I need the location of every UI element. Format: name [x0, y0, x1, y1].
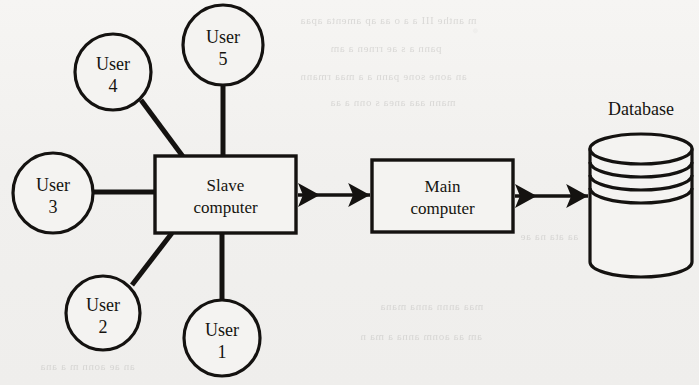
link-user2-slave — [132, 233, 172, 285]
user-node-1[interactable]: User1 — [184, 300, 260, 376]
main-computer-box-label-line2: computer — [410, 199, 475, 218]
database-cylinder[interactable]: Database — [590, 99, 692, 277]
system-topology-diagram: User1User2User3User4User5SlavecomputerMa… — [0, 0, 699, 385]
user-node-4-label-line2: 4 — [109, 76, 118, 96]
user-node-5-label-line2: 5 — [219, 49, 228, 69]
link-user4-slave — [141, 100, 184, 158]
main-computer-box[interactable]: Maincomputer — [372, 160, 513, 232]
database-cylinder-label: Database — [608, 99, 674, 119]
user-node-3-label-line1: User — [36, 175, 70, 195]
database-cylinder-body — [590, 149, 692, 277]
slave-computer-box-label-line2: computer — [193, 198, 258, 217]
user-node-1-label-line2: 1 — [218, 342, 227, 362]
main-computer-box-label-line1: Main — [425, 177, 461, 196]
user-node-5-label-line1: User — [206, 27, 240, 47]
user-node-2-label-line2: 2 — [99, 317, 108, 337]
user-node-2-label-line1: User — [86, 295, 120, 315]
main-computer-box-outline — [372, 160, 513, 232]
user-node-2[interactable]: User2 — [66, 276, 140, 350]
user-node-4-label-line1: User — [96, 54, 130, 74]
user-node-3[interactable]: User3 — [13, 153, 93, 233]
scanned-diagram-page: m anthe III a a o aa ap amenta apaapann … — [0, 0, 699, 385]
slave-computer-box-label-line1: Slave — [207, 176, 245, 195]
slave-computer-box-outline — [155, 156, 296, 233]
user-node-3-label-line2: 3 — [49, 197, 58, 217]
user-node-5[interactable]: User5 — [183, 5, 263, 85]
database-cylinder-top-ellipse — [590, 134, 692, 164]
user-node-1-label-line1: User — [205, 320, 239, 340]
user-node-4[interactable]: User4 — [75, 34, 151, 110]
slave-computer-box[interactable]: Slavecomputer — [155, 156, 296, 233]
